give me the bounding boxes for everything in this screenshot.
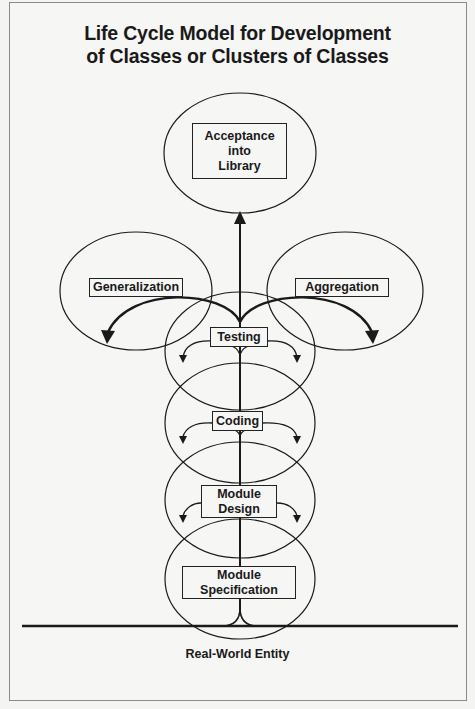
root-curves	[222, 608, 258, 626]
coding-box: Coding	[212, 411, 263, 431]
testing-label: Testing	[217, 330, 261, 345]
aggregation-label: Aggregation	[305, 280, 379, 295]
module-design-box: Module Design	[201, 485, 277, 518]
testing-box: Testing	[210, 327, 268, 347]
coding-label: Coding	[216, 414, 259, 429]
module-specification-box: Module Specification	[182, 566, 296, 599]
lifecycle-diagram	[0, 0, 475, 709]
module-specification-label: Module Specification	[200, 568, 278, 598]
aggregation-box: Aggregation	[295, 278, 389, 297]
generalization-box: Generalization	[89, 278, 183, 297]
acceptance-label: Acceptance into Library	[204, 129, 274, 174]
generalization-label: Generalization	[93, 280, 179, 295]
acceptance-into-library-box: Acceptance into Library	[192, 123, 287, 179]
module-design-label: Module Design	[217, 487, 261, 517]
real-world-entity-label: Real-World Entity	[0, 647, 475, 661]
